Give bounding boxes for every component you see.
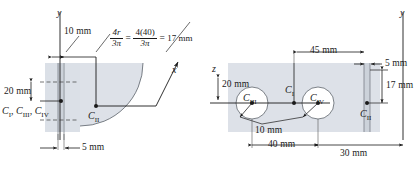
left-x-axis-label: x	[172, 64, 176, 75]
centroid-c2-label: CII	[88, 110, 99, 124]
right-y-axis-label: y	[400, 7, 404, 18]
dim-5mm-bottom: 5 mm	[82, 142, 104, 152]
formula-equals-2: =	[157, 33, 167, 43]
formula-equals-1: =	[123, 33, 133, 43]
dim-20mm-right-view: 20 mm	[222, 79, 249, 89]
centroid-formula: 4r 3π = 4(40) 3π = 17 mm	[110, 28, 193, 48]
left-y-axis-label: y	[57, 7, 61, 18]
dim-45mm: 45 mm	[310, 45, 337, 55]
centroid-group-label: CI, CIII, CIV	[2, 105, 49, 119]
centroid-c4-right-label: CIV	[310, 92, 324, 106]
formula-result: 17 mm	[167, 33, 192, 43]
engineering-diagram	[0, 0, 419, 170]
left-thin-strip	[58, 63, 63, 132]
centroid-c1-right-label: CI	[285, 84, 294, 98]
dim-30mm: 30 mm	[340, 148, 367, 158]
right-z-axis-label: z	[212, 63, 216, 74]
centroid-c3-right-label: CIII	[243, 92, 257, 106]
dim-5mm-right: 5 mm	[385, 58, 407, 68]
left-centroid-dot-c2	[94, 104, 98, 108]
formula-denominator-2: 3π	[133, 39, 157, 48]
dim-17mm: 17 mm	[386, 80, 413, 90]
dim-20mm-left: 20 mm	[4, 86, 31, 96]
right-dot-c2	[365, 101, 369, 105]
left-centroid-dot-group	[59, 99, 63, 103]
centroid-c2-right-label: CII	[360, 108, 371, 122]
formula-numerator-2: 4(40)	[133, 28, 157, 37]
dim-10mm-top: 10 mm	[64, 26, 91, 36]
left-leader-formula	[96, 34, 110, 52]
dim-40mm: 40 mm	[268, 139, 295, 149]
left-leader-10mm	[66, 36, 79, 52]
dim-10mm-radius: 10 mm	[255, 125, 282, 135]
